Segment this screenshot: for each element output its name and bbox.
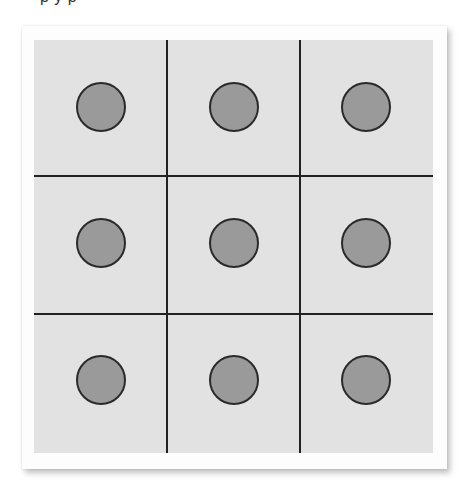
- circle-r2-c1: [76, 218, 126, 268]
- circle-r3-c2: [209, 355, 259, 405]
- horizontal-grid-line-1: [34, 175, 433, 177]
- circle-r2-c2: [209, 218, 259, 268]
- vertical-grid-line-2: [299, 40, 301, 453]
- circle-r3-c3: [341, 355, 391, 405]
- circle-r1-c1: [76, 82, 126, 132]
- cropped-caption-text: p y p: [40, 0, 77, 6]
- vertical-grid-line-1: [166, 40, 168, 453]
- circle-r3-c1: [76, 355, 126, 405]
- circle-r1-c3: [341, 82, 391, 132]
- grid-3x3: [34, 40, 433, 453]
- horizontal-grid-line-2: [34, 313, 433, 315]
- circle-r2-c3: [341, 218, 391, 268]
- circle-r1-c2: [209, 82, 259, 132]
